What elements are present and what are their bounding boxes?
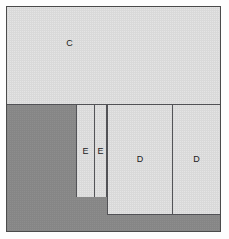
region-c: C [7, 7, 220, 105]
figure-canvas: C E E D D [0, 0, 229, 239]
region-e1-label: E [82, 147, 88, 156]
region-d2-label: D [193, 155, 200, 164]
region-e1: E [76, 105, 95, 197]
region-c-label: C [66, 39, 73, 48]
region-e2: E [95, 105, 107, 197]
region-d1: D [107, 105, 173, 215]
figure-frame: C E E D D [6, 6, 221, 232]
region-d2: D [173, 105, 220, 215]
region-e2-label: E [97, 147, 103, 156]
region-d1-label: D [137, 155, 144, 164]
